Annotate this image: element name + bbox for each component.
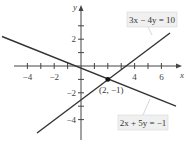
equation-label-1: 3x − 4y = 10 bbox=[129, 15, 176, 25]
y-axis-label: y bbox=[72, 2, 77, 12]
x-axis-label: x bbox=[179, 70, 184, 80]
y-axis-arrow-icon bbox=[79, 5, 84, 11]
x-tick-label: 4 bbox=[132, 72, 137, 82]
intersection-point bbox=[105, 77, 110, 82]
y-tick-label: 2 bbox=[72, 34, 77, 44]
x-tick-label: 6 bbox=[159, 72, 164, 82]
x-tick-label: −2 bbox=[49, 72, 59, 82]
coordinate-plot: −4 −2 4 6 x 2 −2 −4 y (2, −1) 3x − 4y = … bbox=[0, 0, 192, 144]
equation-label-2: 2x + 5y = −1 bbox=[120, 118, 167, 128]
callout-pointer bbox=[143, 99, 150, 115]
y-tick-label: −2 bbox=[66, 88, 76, 98]
callout-pointer bbox=[148, 27, 152, 35]
y-tick-label: −4 bbox=[66, 115, 76, 125]
x-axis-arrow-icon bbox=[176, 64, 182, 69]
x-tick-label: −4 bbox=[23, 72, 33, 82]
point-label: (2, −1) bbox=[99, 85, 124, 95]
